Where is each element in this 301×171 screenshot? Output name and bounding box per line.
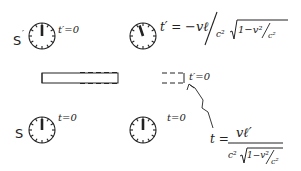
svg-text:1−v²: 1−v² (247, 150, 269, 160)
clock-icon (130, 117, 156, 143)
svg-text:c²: c² (271, 157, 279, 166)
svg-text:1−v²: 1−v² (238, 24, 262, 35)
svg-text:t =: t = (210, 132, 229, 146)
svg-text:−vℓ: −vℓ (185, 19, 209, 34)
svg-text:c²: c² (228, 150, 237, 160)
arrow-icon (187, 84, 213, 128)
clock-icon (130, 23, 156, 49)
svg-text:vℓ′: vℓ′ (236, 125, 252, 140)
formula-bottom: t = vℓ′ c² 1−v² c² (210, 125, 283, 166)
svg-text:c²: c² (268, 31, 276, 40)
rod-end-label: t′=0 (189, 71, 211, 82)
frame-label-s: S (15, 126, 23, 141)
svg-text:S: S (13, 33, 21, 48)
svg-text:t′ =: t′ = (160, 20, 181, 34)
clock-icon (29, 117, 55, 143)
formula-top: t′ = −vℓ c² 1−v² c² (160, 12, 288, 45)
svg-text:′: ′ (22, 29, 24, 39)
relativity-diagram: S ′ t′=0 t′ = −vℓ c² 1−v² c² (0, 0, 301, 171)
rod (42, 73, 184, 84)
frame-label-s-prime: S ′ (13, 29, 24, 48)
clock-icon (29, 23, 55, 49)
svg-text:c²: c² (216, 29, 225, 39)
clock-label: t′=0 (58, 24, 80, 35)
clock-label: t=0 (167, 112, 186, 123)
clock-label: t=0 (58, 112, 77, 123)
